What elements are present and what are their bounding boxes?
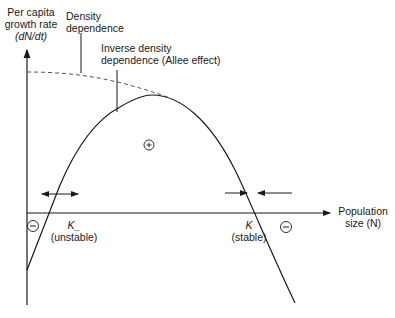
y-axis-label-line3: (dN/dt) [2,30,60,42]
density-dependence-line2: dependence [66,22,124,34]
density-dependence-label: Density dependence [66,10,124,34]
x-axis-label: Population size (N) [332,205,394,229]
y-axis-label-line1: Per capita [2,6,60,18]
k-symbol: K [226,219,272,231]
y-axis-label-line2: growth rate [2,18,60,30]
k-note: (stable) [226,231,272,243]
y-axis-label: Per capita growth rate (dN/dt) [2,6,60,42]
allee-growth-curve [27,95,295,303]
k-label: K (stable) [226,219,272,243]
allee-effect-label: Inverse density dependence (Allee effect… [101,42,220,66]
x-axis-label-line2: size (N) [332,217,394,229]
k-minus-note: (unstable) [44,231,104,243]
allee-effect-line2: dependence (Allee effect) [101,54,220,66]
k-minus-label: K_ (unstable) [44,219,104,243]
x-axis-label-line1: Population [332,205,394,217]
density-dependence-curve [27,72,170,98]
density-dependence-line1: Density [66,10,124,22]
allee-effect-line1: Inverse density [101,42,220,54]
k-minus-symbol: K_ [44,219,104,231]
